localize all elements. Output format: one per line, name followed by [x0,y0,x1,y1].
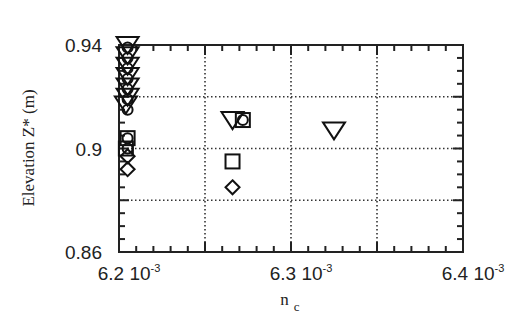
x-axis-title: nc [280,290,300,314]
square-marker [226,154,240,168]
grid-lines [119,45,463,252]
x-tick-label: 6.2 10-3 [98,262,161,284]
y-axis-title: Elevation Z* (m) [19,89,38,206]
diamond-marker [226,180,240,194]
y-tick-labels: 0.940.90.86 [65,35,102,263]
x-tick-label: 6.3 10-3 [270,262,333,284]
data-points [115,37,345,194]
y-tick-label: 0.9 [76,139,102,160]
triangle-marker [323,122,345,139]
x-tick-label: 6.4 10-3 [442,262,505,284]
x-tick-labels: 6.2 10-36.3 10-36.4 10-3 [98,262,505,284]
y-tick-label: 0.94 [65,35,102,56]
scatter-chart: 0.940.90.86 6.2 10-36.3 10-36.4 10-3 Ele… [0,0,532,333]
y-tick-label: 0.86 [65,242,102,263]
